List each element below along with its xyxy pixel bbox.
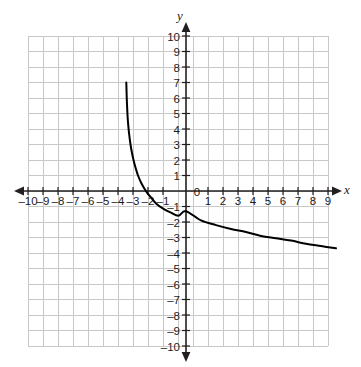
- y-tick-label: 8: [174, 62, 180, 74]
- x-tick-label: 1: [205, 195, 211, 207]
- x-tick-label: –9: [37, 195, 50, 207]
- origin-label: 0: [194, 186, 200, 198]
- x-tick-label: 5: [265, 195, 271, 207]
- y-tick-label: 7: [174, 77, 180, 89]
- y-tick-label: 10: [167, 31, 180, 43]
- y-axis-label: y: [175, 8, 183, 23]
- x-tick-label: –4: [112, 195, 125, 207]
- x-tick-label: –6: [82, 195, 95, 207]
- x-tick-label: –10: [18, 195, 37, 207]
- y-tick-label: 2: [174, 155, 180, 167]
- x-tick-label: 6: [280, 195, 286, 207]
- y-tick-label: –8: [167, 310, 180, 322]
- x-tick-label: 7: [295, 195, 301, 207]
- y-tick-label: –6: [167, 279, 180, 291]
- y-tick-label: 1: [174, 170, 180, 182]
- x-tick-label: 8: [310, 195, 316, 207]
- x-tick-label: –7: [67, 195, 80, 207]
- y-tick-label: –4: [167, 248, 180, 260]
- x-tick-label: –8: [52, 195, 65, 207]
- x-tick-label: 3: [235, 195, 241, 207]
- x-tick-label: 9: [325, 195, 331, 207]
- canvas-background: [0, 0, 361, 367]
- y-tick-label: 3: [174, 139, 180, 151]
- y-tick-label: 5: [174, 108, 180, 120]
- x-tick-label: 4: [250, 195, 257, 207]
- x-tick-label: –5: [97, 195, 110, 207]
- y-tick-label: 9: [174, 46, 180, 58]
- y-tick-label: –3: [167, 232, 180, 244]
- y-tick-label: –5: [167, 263, 180, 275]
- y-tick-label: –2: [167, 217, 180, 229]
- x-axis-label: x: [343, 182, 350, 197]
- y-tick-label: –10: [161, 341, 180, 353]
- x-tick-label: 2: [220, 195, 226, 207]
- y-tick-label: –9: [167, 325, 180, 337]
- y-tick-label: –7: [167, 294, 180, 306]
- x-tick-label: –3: [127, 195, 140, 207]
- graph-figure: –10 –9 –8 –7 –6 –5 –4 –3 –2 –1 1 2 3 4 5…: [0, 0, 361, 367]
- coordinate-plane-svg: –10 –9 –8 –7 –6 –5 –4 –3 –2 –1 1 2 3 4 5…: [0, 0, 361, 367]
- y-tick-label: 4: [174, 124, 181, 136]
- y-tick-label: 6: [174, 93, 180, 105]
